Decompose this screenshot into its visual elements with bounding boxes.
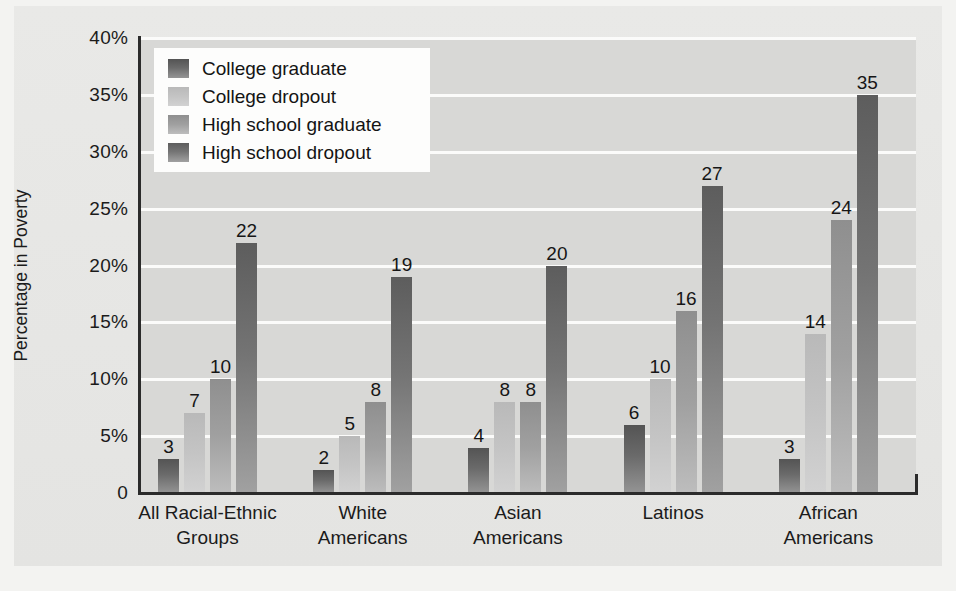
y-tick-label-35pct: 35% [64,85,128,104]
bar-value-label: 2 [318,448,329,468]
bar[interactable]: 8 [520,402,541,493]
x-category-label-line: Americans [408,525,628,550]
x-axis-line [138,492,918,495]
bar[interactable]: 6 [624,425,645,493]
legend-item[interactable]: College dropout [154,82,430,110]
legend-item[interactable]: College graduate [154,54,430,82]
y-tick-label-15pct: 15% [64,312,128,331]
y-tick-label-5pct: 5% [64,426,128,445]
y-tick-label-30pct: 30% [64,142,128,161]
bar-value-label: 16 [676,289,697,309]
bar-value-label: 4 [474,426,485,446]
x-category-label-line: African [718,500,938,525]
bar-value-label: 20 [546,244,567,264]
legend-swatch-icon [168,143,189,162]
y-tick-label-25pct: 25% [64,199,128,218]
bar[interactable]: 7 [184,413,205,493]
bar-value-label: 10 [650,357,671,377]
bar-value-label: 24 [831,198,852,218]
bar-value-label: 3 [163,437,174,457]
bar-value-label: 10 [210,357,231,377]
bar-group: 48820 [468,38,567,493]
bar-value-label: 14 [805,312,826,332]
bar[interactable]: 4 [468,448,489,494]
x-category-label-line: Americans [718,525,938,550]
bar[interactable]: 22 [236,243,257,493]
y-axis-title: Percentage in Poverty [11,126,32,426]
x-axis-right-tick [915,474,918,495]
bar[interactable]: 8 [365,402,386,493]
bar-value-label: 6 [629,403,640,423]
y-axis-line [138,36,141,495]
bar[interactable]: 3 [779,459,800,493]
legend-label: College graduate [202,59,347,78]
legend-swatch-icon [168,87,189,106]
legend-label: College dropout [202,87,336,106]
bar[interactable]: 24 [831,220,852,493]
bar-value-label: 7 [189,391,200,411]
figure-container: Percentage in Poverty 05%10%15%20%25%30%… [0,0,956,591]
bar[interactable]: 19 [391,277,412,493]
y-tick-label-40pct: 40% [64,28,128,47]
bar[interactable]: 8 [494,402,515,493]
bar-value-label: 8 [370,380,381,400]
legend-item[interactable]: High school graduate [154,110,430,138]
legend-label: High school dropout [202,143,371,162]
bar-value-label: 8 [526,380,537,400]
bar-group: 6101627 [624,38,723,493]
bar[interactable]: 10 [650,379,671,493]
bar-value-label: 3 [784,437,795,457]
bar-value-label: 5 [344,414,355,434]
bar[interactable]: 2 [313,470,334,493]
bar-value-label: 8 [500,380,511,400]
x-category-label: AfricanAmericans [718,500,938,550]
legend-swatch-icon [168,115,189,134]
legend-label: High school graduate [202,115,382,134]
bar[interactable]: 16 [676,311,697,493]
legend-swatch-icon [168,59,189,78]
bar-value-label: 27 [702,164,723,184]
bar-value-label: 19 [391,255,412,275]
legend-item[interactable]: High school dropout [154,138,430,166]
chart-legend[interactable]: College graduateCollege dropoutHigh scho… [154,48,430,172]
bar[interactable]: 27 [702,186,723,493]
bar[interactable]: 5 [339,436,360,493]
bar-value-label: 22 [236,221,257,241]
bar[interactable]: 10 [210,379,231,493]
bar[interactable]: 35 [857,95,878,493]
bar-group: 3142435 [779,38,878,493]
y-tick-label-20pct: 20% [64,256,128,275]
y-tick-label-10pct: 10% [64,369,128,388]
bar-value-label: 35 [857,73,878,93]
bar[interactable]: 3 [158,459,179,493]
bar[interactable]: 14 [805,334,826,493]
bar[interactable]: 20 [546,266,567,494]
